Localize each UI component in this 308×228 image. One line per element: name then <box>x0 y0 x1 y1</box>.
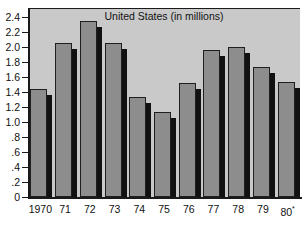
bar-shadow <box>245 53 250 197</box>
bar <box>55 43 72 198</box>
x-axis-line <box>28 197 302 199</box>
y-tick-label: .2 <box>0 177 20 188</box>
bar-shadow <box>146 103 151 197</box>
bar-shadow <box>270 73 275 197</box>
bar-group <box>154 0 176 197</box>
bar-shadow <box>97 27 102 197</box>
bar-shadow <box>220 56 225 197</box>
bar-shadow <box>295 88 300 197</box>
y-tick-label: .8 <box>0 132 20 143</box>
bar-group <box>105 0 127 197</box>
y-tick-label: .4 <box>0 162 20 173</box>
bar-shadow <box>122 49 127 197</box>
bar <box>80 21 97 197</box>
y-tick-label: 2.4 <box>0 12 20 23</box>
bar <box>253 67 270 197</box>
bar-shadow <box>171 118 176 198</box>
y-tick-label: 1.0 <box>0 117 20 128</box>
y-tick-label: 2.0 <box>0 42 20 53</box>
y-tick-mark <box>22 167 28 168</box>
bar <box>228 47 245 197</box>
y-tick-label: .6 <box>0 147 20 158</box>
bar <box>105 43 122 197</box>
bar <box>203 50 220 197</box>
y-tick-label: 1.4 <box>0 87 20 98</box>
y-tick-mark <box>22 92 28 93</box>
bar <box>278 82 295 197</box>
bar-group <box>80 0 102 197</box>
y-tick-label: 1.2 <box>0 102 20 113</box>
y-tick-mark <box>22 122 28 123</box>
y-tick-mark <box>22 62 28 63</box>
bar <box>30 89 47 197</box>
bar-group <box>30 0 52 197</box>
y-tick-mark <box>22 32 28 33</box>
y-tick-mark <box>22 107 28 108</box>
bar-group <box>55 0 77 197</box>
bar-group <box>203 0 225 197</box>
y-tick-mark <box>22 137 28 138</box>
bar-shadow <box>72 49 77 198</box>
y-tick-mark <box>22 182 28 183</box>
x-tick-label: 80* <box>269 203 306 218</box>
y-tick-label: 1.8 <box>0 57 20 68</box>
y-tick-label: 1.6 <box>0 72 20 83</box>
bar-group <box>179 0 201 197</box>
y-tick-mark <box>22 197 28 198</box>
footnote-marker: * <box>292 205 295 212</box>
bar-shadow <box>47 95 52 197</box>
bar-group <box>253 0 275 197</box>
bar <box>129 97 146 197</box>
y-tick-label: 0 <box>0 192 20 203</box>
bar-chart: 0.2.4.6.81.01.21.41.61.82.02.22.4 197071… <box>0 0 308 228</box>
bar <box>154 112 171 198</box>
bar <box>179 83 196 197</box>
y-tick-mark <box>22 47 28 48</box>
y-tick-mark <box>22 152 28 153</box>
chart-title: United States (in millions) <box>28 10 300 22</box>
bar-shadow <box>196 89 201 197</box>
y-tick-mark <box>22 77 28 78</box>
y-tick-label: 2.2 <box>0 27 20 38</box>
bar-group <box>129 0 151 197</box>
bar-group <box>278 0 300 197</box>
bar-group <box>228 0 250 197</box>
